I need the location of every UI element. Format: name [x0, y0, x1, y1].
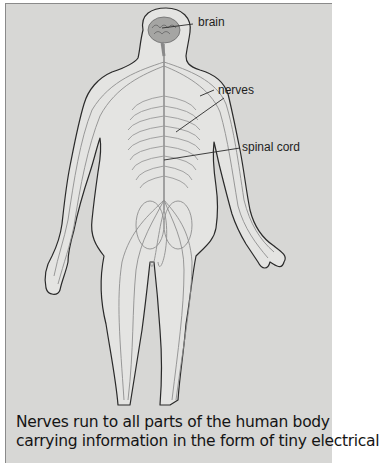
label-brain: brain: [198, 15, 225, 29]
label-nerves: nerves: [218, 83, 254, 97]
figure-caption: Nerves run to all parts of the human bod…: [16, 413, 336, 451]
caption-line-2: carrying information in the form of tiny…: [16, 432, 336, 451]
label-spinal-cord: spinal cord: [242, 140, 300, 154]
caption-line-1: Nerves run to all parts of the human bod…: [16, 413, 336, 432]
body-outline: [45, 8, 285, 405]
